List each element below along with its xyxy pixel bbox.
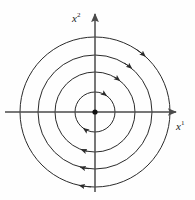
x1-axis-label: x1	[176, 121, 184, 132]
x1-axis-label-superscript: 1	[181, 119, 185, 127]
figure-background	[0, 0, 195, 200]
x2-axis-label: x2	[72, 13, 80, 24]
phase-portrait-canvas	[0, 0, 195, 200]
origin-dot	[92, 109, 97, 114]
x2-axis-label-superscript: 2	[77, 11, 81, 19]
phase-portrait-figure: x2 x1	[0, 0, 195, 200]
